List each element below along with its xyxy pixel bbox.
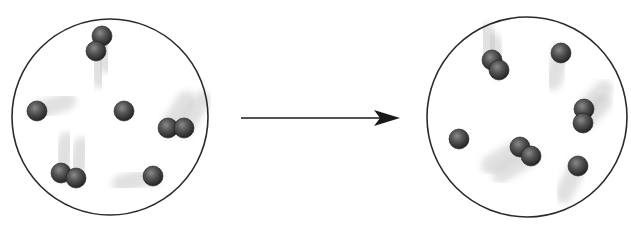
diatomic-molecule [482,50,509,80]
single-atom [27,101,47,121]
molecule-diagram [0,0,631,230]
atom [66,168,86,188]
atom [521,146,541,166]
atom [568,156,588,176]
atom [551,43,571,63]
single-atom [551,43,571,63]
single-atom [114,101,134,121]
atom [86,41,106,61]
atom [489,60,509,80]
single-atom [568,156,588,176]
atom [174,118,194,138]
process-arrow [241,110,400,126]
atom [449,129,469,149]
diatomic-molecule [573,99,594,133]
single-atom [143,166,163,186]
atom [143,166,163,186]
containers [12,17,627,217]
single-atom [449,129,469,149]
atom [573,113,593,133]
atom [114,101,134,121]
atom [27,101,47,121]
